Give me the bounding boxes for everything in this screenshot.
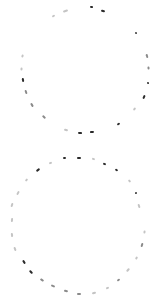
circle-tick-mark	[142, 95, 145, 99]
circle-tick-mark	[51, 14, 55, 17]
circle-tick-mark	[77, 293, 81, 295]
circle-tick-mark	[91, 158, 94, 161]
circle-tick-mark	[78, 132, 82, 134]
circle-tick-mark	[102, 162, 106, 165]
circle-tick-mark	[147, 82, 149, 84]
circle-tick-mark	[116, 122, 120, 125]
circle-tick-mark	[21, 54, 24, 57]
circle-tick-mark	[143, 230, 145, 233]
circle-tick-mark	[48, 161, 52, 164]
circle-tick-mark	[132, 107, 135, 111]
circle-tick-mark	[105, 286, 109, 289]
circle-tick-mark	[101, 9, 105, 12]
circle-tick-mark	[13, 247, 16, 251]
circle-tick-mark	[22, 78, 24, 82]
circle-tick-mark	[16, 191, 20, 195]
circle-tick-mark	[42, 115, 46, 119]
circle-tick-mark	[62, 157, 65, 160]
circle-tick-mark	[147, 66, 149, 69]
circle-tick-mark	[137, 204, 140, 208]
circle-tick-mark	[10, 203, 13, 207]
circle-tick-mark	[30, 103, 34, 107]
circle-tick-mark	[126, 268, 130, 272]
circle-tick-mark	[127, 179, 130, 183]
circle-tick-mark	[140, 243, 143, 247]
circle-tick-mark	[92, 292, 96, 295]
circle-tick-mark	[134, 256, 137, 260]
circle-tick-mark	[40, 278, 44, 282]
circle-tick-mark	[90, 131, 94, 133]
circle-tick-mark	[36, 168, 40, 172]
circle-tick-mark	[89, 6, 92, 8]
circle-tick-mark	[11, 218, 13, 222]
circle-tick-mark	[24, 90, 27, 94]
circle-tick-mark	[29, 270, 33, 274]
circle-tick-mark	[11, 233, 14, 237]
circle-tick-mark	[62, 9, 67, 12]
diagram-canvas	[0, 0, 159, 304]
circle-tick-mark	[24, 178, 27, 182]
circle-tick-mark	[114, 168, 118, 171]
circle-tick-mark	[64, 128, 68, 131]
circle-tick-mark	[135, 32, 138, 35]
circle-tick-mark	[22, 260, 26, 264]
circle-tick-mark	[146, 54, 149, 58]
circle-tick-mark	[20, 67, 22, 70]
circle-tick-mark	[64, 290, 68, 293]
circle-tick-mark	[77, 157, 81, 159]
circle-tick-mark	[51, 284, 55, 287]
circle-tick-mark	[116, 278, 120, 281]
circle-tick-mark	[135, 192, 138, 195]
